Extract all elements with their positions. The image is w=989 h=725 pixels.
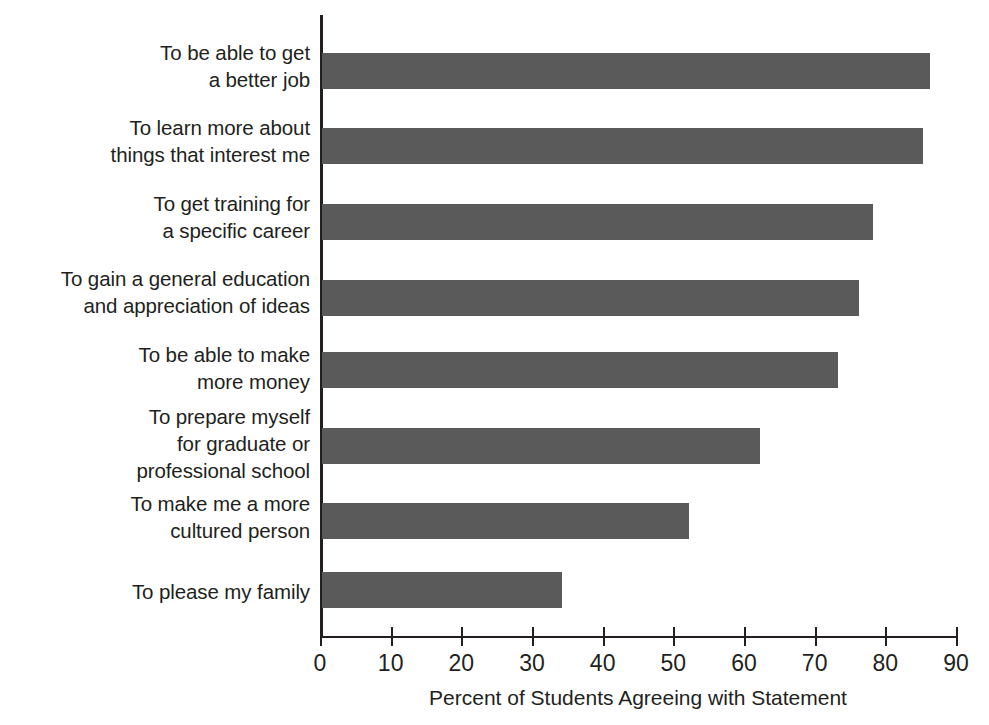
- x-tick-label: 80: [855, 650, 915, 677]
- x-tick-mark: [744, 627, 746, 646]
- x-tick-label: 20: [431, 650, 491, 677]
- category-label: To learn more about things that interest…: [0, 114, 310, 168]
- bar: [322, 572, 562, 608]
- category-label: To please my family: [0, 578, 310, 605]
- bar-chart: To be able to get a better job To learn …: [0, 0, 989, 725]
- x-tick-label: 60: [714, 650, 774, 677]
- bar: [322, 352, 838, 388]
- category-label: To make me a more cultured person: [0, 490, 310, 544]
- bar: [322, 503, 689, 539]
- x-tick-mark: [391, 627, 393, 646]
- x-tick-mark: [885, 627, 887, 646]
- x-tick-label: 10: [361, 650, 421, 677]
- x-tick-mark: [461, 627, 463, 646]
- x-axis-title: Percent of Students Agreeing with Statem…: [320, 686, 956, 710]
- x-tick-label: 70: [785, 650, 845, 677]
- bar: [322, 280, 859, 316]
- x-tick-mark: [815, 627, 817, 646]
- category-label: To get training for a specific career: [0, 190, 310, 244]
- category-label: To gain a general education and apprecia…: [0, 265, 310, 319]
- y-axis-line: [320, 15, 323, 637]
- x-tick-mark: [532, 627, 534, 646]
- x-tick-label: 40: [573, 650, 633, 677]
- x-tick-label: 90: [926, 650, 986, 677]
- x-tick-mark: [603, 627, 605, 646]
- bar: [322, 428, 760, 464]
- x-tick-mark: [956, 627, 958, 646]
- bar: [322, 204, 873, 240]
- category-axis-labels: To be able to get a better job To learn …: [0, 0, 310, 640]
- category-label: To prepare myself for graduate or profes…: [0, 403, 310, 484]
- x-tick-label: 0: [290, 650, 350, 677]
- plot-area: [320, 0, 989, 640]
- bar: [322, 53, 930, 89]
- x-tick-label: 50: [643, 650, 703, 677]
- x-axis-ticks: 0102030405060708090: [320, 636, 989, 725]
- x-tick-mark: [673, 627, 675, 646]
- category-label: To be able to make more money: [0, 341, 310, 395]
- bar: [322, 128, 923, 164]
- x-tick-mark: [320, 627, 322, 646]
- x-tick-label: 30: [502, 650, 562, 677]
- category-label: To be able to get a better job: [0, 39, 310, 93]
